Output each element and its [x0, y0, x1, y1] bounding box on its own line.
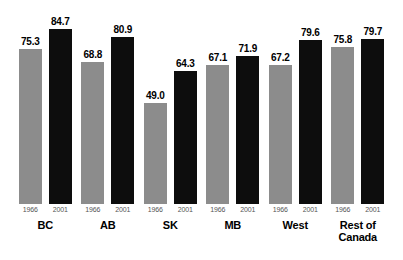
category-name: SK — [163, 219, 178, 231]
category-name-line: AB — [100, 219, 116, 231]
bar-pair: 75.384.7 — [19, 0, 72, 204]
year-tick-row: 19662001 — [144, 205, 197, 214]
year-tick-1966: 1966 — [144, 205, 167, 214]
year-tick-1966: 1966 — [331, 205, 354, 214]
category-name-line: BC — [38, 219, 54, 231]
bar-value-label: 79.7 — [363, 26, 382, 37]
bar-group: 75.384.7 — [14, 0, 77, 204]
bar-2001[interactable] — [111, 37, 134, 204]
bar-2001[interactable] — [236, 56, 259, 204]
bar-chart: 75.384.768.880.949.064.367.171.967.279.6… — [0, 0, 403, 260]
category-name: AB — [100, 219, 116, 231]
year-tick-1966: 1966 — [19, 205, 42, 214]
category-label-group: 19662001MB — [202, 204, 265, 231]
category-name-line: MB — [224, 219, 241, 231]
bar-2001[interactable] — [299, 40, 322, 204]
year-tick-row: 19662001 — [331, 205, 384, 214]
bar-pair: 67.279.6 — [269, 0, 322, 204]
year-tick-1966: 1966 — [206, 205, 229, 214]
bar-1966[interactable] — [144, 103, 167, 204]
bar-column-1966[interactable]: 67.1 — [206, 0, 229, 204]
year-tick-1966: 1966 — [81, 205, 104, 214]
category-label-group: 19662001SK — [139, 204, 202, 231]
year-tick-2001: 2001 — [111, 205, 134, 214]
category-name: West — [283, 219, 308, 231]
bar-value-label: 49.0 — [146, 90, 165, 101]
bar-column-1966[interactable]: 67.2 — [269, 0, 292, 204]
category-name: MB — [224, 219, 241, 231]
bar-column-1966[interactable]: 49.0 — [144, 0, 167, 204]
bar-value-label: 67.2 — [271, 52, 290, 63]
year-tick-row: 19662001 — [19, 205, 72, 214]
year-tick-2001: 2001 — [236, 205, 259, 214]
bar-column-2001[interactable]: 71.9 — [236, 0, 259, 204]
bar-pair: 68.880.9 — [81, 0, 134, 204]
year-tick-2001: 2001 — [299, 205, 322, 214]
year-tick-row: 19662001 — [81, 205, 134, 214]
bar-value-label: 79.6 — [301, 27, 320, 38]
bar-1966[interactable] — [331, 47, 354, 204]
category-name-line: SK — [163, 219, 178, 231]
category-name: BC — [38, 219, 54, 231]
bar-value-label: 64.3 — [176, 58, 195, 69]
year-tick-2001: 2001 — [49, 205, 72, 214]
category-name-line: Canada — [338, 231, 377, 243]
bar-column-2001[interactable]: 84.7 — [49, 0, 72, 204]
category-label-group: 19662001West — [264, 204, 327, 231]
bar-2001[interactable] — [49, 29, 72, 204]
bar-column-1966[interactable]: 68.8 — [81, 0, 104, 204]
bar-value-label: 71.9 — [238, 43, 257, 54]
bar-pair: 75.879.7 — [331, 0, 384, 204]
bar-column-2001[interactable]: 64.3 — [174, 0, 197, 204]
bar-column-2001[interactable]: 79.7 — [361, 0, 384, 204]
plot-area: 75.384.768.880.949.064.367.171.967.279.6… — [0, 0, 403, 204]
category-label-group: 19662001BC — [14, 204, 77, 231]
year-tick-1966: 1966 — [269, 205, 292, 214]
bar-column-2001[interactable]: 80.9 — [111, 0, 134, 204]
category-label-group: 19662001AB — [77, 204, 140, 231]
bar-group: 68.880.9 — [77, 0, 140, 204]
category-name-line: West — [283, 219, 308, 231]
bar-1966[interactable] — [81, 62, 104, 204]
bar-group: 75.879.7 — [327, 0, 390, 204]
bar-value-label: 75.8 — [333, 34, 352, 45]
bar-group: 67.171.9 — [202, 0, 265, 204]
bar-value-label: 84.7 — [51, 16, 70, 27]
category-label-group: 19662001Rest ofCanada — [327, 204, 390, 243]
year-tick-2001: 2001 — [361, 205, 384, 214]
bar-2001[interactable] — [174, 71, 197, 204]
year-tick-row: 19662001 — [269, 205, 322, 214]
bar-column-2001[interactable]: 79.6 — [299, 0, 322, 204]
bar-value-label: 75.3 — [21, 36, 40, 47]
bar-column-1966[interactable]: 75.3 — [19, 0, 42, 204]
category-axis: 19662001BC19662001AB19662001SK19662001MB… — [0, 204, 403, 260]
bar-pair: 67.171.9 — [206, 0, 259, 204]
bar-2001[interactable] — [361, 39, 384, 204]
bar-group: 67.279.6 — [264, 0, 327, 204]
category-name-line: Rest of — [338, 219, 377, 231]
bar-value-label: 68.8 — [83, 49, 102, 60]
bar-pair: 49.064.3 — [144, 0, 197, 204]
bar-group: 49.064.3 — [139, 0, 202, 204]
year-tick-2001: 2001 — [174, 205, 197, 214]
bar-column-1966[interactable]: 75.8 — [331, 0, 354, 204]
bar-1966[interactable] — [269, 65, 292, 204]
bar-1966[interactable] — [19, 49, 42, 205]
bar-value-label: 67.1 — [208, 52, 227, 63]
bar-value-label: 80.9 — [113, 24, 132, 35]
category-name: Rest ofCanada — [338, 219, 377, 243]
bar-1966[interactable] — [206, 65, 229, 204]
year-tick-row: 19662001 — [206, 205, 259, 214]
